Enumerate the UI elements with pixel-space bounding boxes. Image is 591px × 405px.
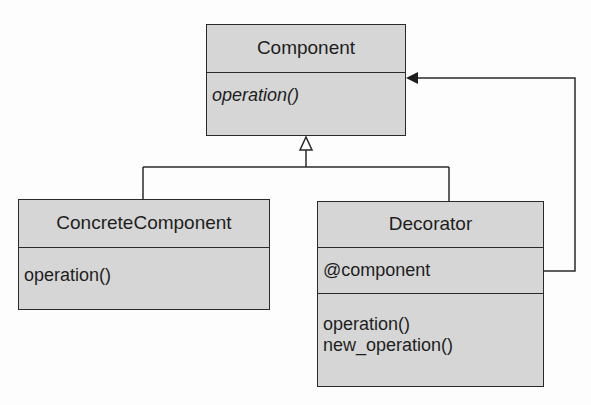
class-name: Component: [207, 25, 405, 72]
operation: operation(): [19, 265, 269, 286]
attribute: @component: [318, 260, 543, 281]
class-decorator: Decorator @component operation() new_ope…: [317, 201, 544, 387]
operations-section: operation(): [207, 72, 405, 135]
generalization-arrowhead-icon: [300, 137, 312, 150]
operations-section: operation() new_operation(): [318, 293, 543, 386]
association-arrowhead-icon: [406, 72, 418, 84]
operation: operation(): [207, 85, 405, 106]
class-concrete-component: ConcreteComponent operation(): [18, 199, 270, 310]
class-component: Component operation(): [206, 24, 406, 136]
operation: operation(): [318, 314, 543, 335]
operation: new_operation(): [318, 335, 543, 356]
uml-diagram: Component operation() ConcreteComponent …: [0, 0, 591, 405]
attributes-section: @component: [318, 247, 543, 293]
class-name: Decorator: [318, 202, 543, 247]
class-name: ConcreteComponent: [19, 200, 269, 247]
operations-section: operation(): [19, 247, 269, 309]
